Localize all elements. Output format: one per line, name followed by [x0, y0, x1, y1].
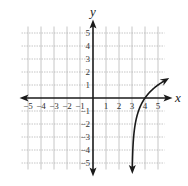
x-tick-label: 4 [143, 101, 148, 111]
y-tick-label: 3 [86, 54, 91, 64]
y-tick-label: 1 [86, 80, 91, 90]
x-axis-label: x [174, 90, 181, 105]
function-curve [129, 78, 169, 174]
y-tick-label: −2 [80, 119, 90, 129]
x-tick-label: 3 [130, 101, 135, 111]
x-tick-label: 5 [156, 101, 161, 111]
curve-up-arrow-icon [160, 78, 170, 86]
x-tick-label: −5 [23, 101, 33, 111]
x-tick-label: 1 [104, 101, 109, 111]
x-tick-label: 2 [117, 101, 122, 111]
graph-container: −5−4−3−2−112345−5−4−3−2−112345 x y [0, 0, 188, 186]
axes [20, 20, 173, 177]
coordinate-plane: −5−4−3−2−112345−5−4−3−2−112345 x y [0, 0, 188, 186]
y-tick-label: 4 [86, 41, 91, 51]
y-axis-label: y [88, 4, 96, 19]
y-tick-label: 2 [86, 67, 91, 77]
x-tick-label: −4 [36, 101, 46, 111]
y-tick-label: −3 [80, 132, 90, 142]
y-tick-label: −1 [80, 106, 90, 116]
y-tick-label: −5 [80, 158, 90, 168]
y-tick-label: 5 [86, 28, 91, 38]
x-tick-label: −3 [49, 101, 59, 111]
y-tick-label: −4 [80, 145, 90, 155]
x-tick-label: −2 [62, 101, 72, 111]
